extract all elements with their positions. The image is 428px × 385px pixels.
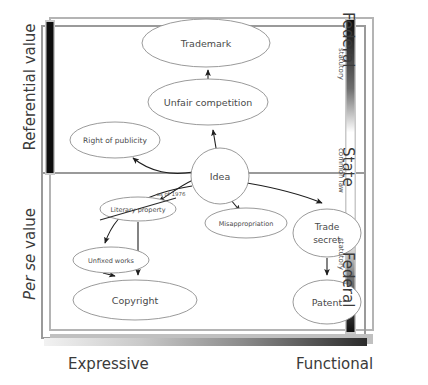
node-misappropriation-label: Misappropriation (219, 220, 274, 228)
axis-label-referential-value: Referential value (21, 17, 39, 157)
axis-minor-label-statutory-top: statutory (337, 48, 345, 80)
node-trademark[interactable]: Trademark (142, 19, 270, 67)
axis-label-functional: Functional (296, 355, 373, 373)
axis-label-expressive: Expressive (68, 355, 149, 373)
edge-note-as-of-1976: as of 1976 (156, 191, 186, 197)
edge-idea-to-trade-secret (247, 183, 322, 203)
diagram-figure: Trademark Unfair competition Right of pu… (0, 0, 428, 385)
node-idea-label: Idea (210, 171, 231, 182)
node-misappropriation[interactable]: Misappropriation (205, 208, 287, 238)
node-copyright-label: Copyright (112, 295, 159, 306)
node-literary-property[interactable]: Literary property (100, 197, 176, 221)
node-trademark-label: Trademark (180, 38, 232, 49)
node-unfair-competition[interactable]: Unfair competition (148, 79, 268, 125)
node-trade-secret-label-line1: Trade (314, 222, 340, 232)
node-copyright[interactable]: Copyright (73, 280, 197, 320)
axis-label-per-se-roman: value (21, 208, 39, 254)
left-axis-bar (45, 20, 55, 175)
node-unfixed-works[interactable]: Unfixed works (73, 247, 149, 273)
node-literary-property-label: Literary property (110, 206, 165, 214)
node-patent-label: Patent (312, 297, 343, 308)
node-unfixed-works-label: Unfixed works (88, 257, 135, 265)
edge-unfixed-to-copyright (103, 273, 115, 276)
axis-minor-label-statutory-bottom: statutory (337, 238, 345, 270)
node-unfair-competition-label: Unfair competition (164, 97, 252, 108)
node-right-of-publicity[interactable]: Right of publicity (70, 122, 160, 158)
edge-idea-to-unfair (213, 130, 216, 148)
diagram-canvas: Trademark Unfair competition Right of pu… (0, 0, 428, 385)
axis-label-per-se-value: Per se value (21, 188, 39, 320)
bottom-axis-bar (44, 334, 373, 346)
node-right-of-publicity-label: Right of publicity (83, 136, 147, 145)
axis-label-per-se-italic: Per se (21, 254, 39, 300)
node-layer: Trademark Unfair competition Right of pu… (70, 19, 361, 324)
axis-minor-label-common-law: common law (337, 148, 345, 193)
node-idea[interactable]: Idea (191, 148, 249, 204)
edge-idea-to-right-of-publicity (133, 158, 193, 173)
